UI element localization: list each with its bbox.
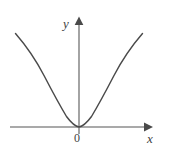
x-axis-label: x — [146, 131, 153, 146]
graph-canvas: y x 0 — [0, 0, 169, 156]
y-axis-arrowhead — [75, 17, 84, 26]
parabola-figure: y x 0 — [0, 0, 169, 156]
y-axis-label: y — [61, 16, 69, 31]
origin-label: 0 — [74, 131, 80, 145]
